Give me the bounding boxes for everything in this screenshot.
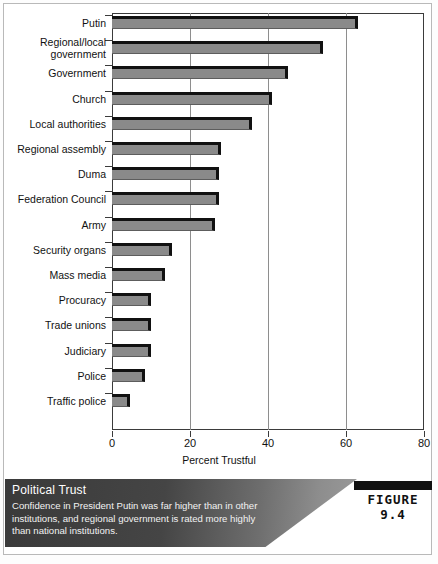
y-axis-label: Duma xyxy=(0,169,106,181)
bar xyxy=(112,293,151,306)
y-axis-tick xyxy=(105,267,112,268)
y-axis-label: Local authorities xyxy=(0,119,106,131)
y-axis-label: Traffic police xyxy=(0,396,106,408)
y-axis-label: Government xyxy=(0,68,106,80)
bar xyxy=(112,41,323,54)
y-axis-label: Putin xyxy=(0,18,106,30)
y-axis-tick xyxy=(105,40,112,41)
y-axis-tick xyxy=(105,368,112,369)
bar xyxy=(112,369,145,382)
bar xyxy=(112,192,219,205)
x-axis-tick-label: 40 xyxy=(248,437,288,449)
bar xyxy=(112,318,151,331)
y-axis-tick xyxy=(105,116,112,117)
y-axis-label: Federation Council xyxy=(0,194,106,206)
y-axis-tick xyxy=(105,343,112,344)
caption-body: Confidence in President Putin was far hi… xyxy=(12,500,262,538)
figure-badge: FIGURE 9.4 xyxy=(354,481,432,522)
y-axis-tick xyxy=(105,166,112,167)
y-axis-label: Procuracy xyxy=(0,295,106,307)
bar xyxy=(112,117,252,130)
y-axis-label: Church xyxy=(0,94,106,106)
bar xyxy=(112,142,221,155)
y-axis-label: Regional/local government xyxy=(0,37,106,60)
bar xyxy=(112,167,219,180)
y-axis-tick xyxy=(105,242,112,243)
chart-area: PutinRegional/local governmentGovernment… xyxy=(0,0,438,470)
bar xyxy=(112,344,151,357)
y-axis-label: Trade unions xyxy=(0,320,106,332)
x-axis-tick-label: 20 xyxy=(170,437,210,449)
figure-badge-bar xyxy=(354,481,432,490)
x-axis-tick-label: 60 xyxy=(326,437,366,449)
x-axis-title: Percent Trustful xyxy=(0,454,438,466)
y-axis-label: Police xyxy=(0,371,106,383)
y-axis-tick xyxy=(105,292,112,293)
figure-number-label: FIGURE 9.4 xyxy=(354,492,432,522)
y-axis-tick xyxy=(105,393,112,394)
y-axis-tick xyxy=(105,15,112,16)
bar xyxy=(112,394,130,407)
bar xyxy=(112,243,172,256)
scanned-page: PutinRegional/local governmentGovernment… xyxy=(0,0,438,564)
y-axis-tick xyxy=(105,141,112,142)
x-axis-tick-label: 0 xyxy=(92,437,132,449)
y-axis-tick xyxy=(105,217,112,218)
x-axis-tick-label: 80 xyxy=(404,437,438,449)
y-axis-tick xyxy=(105,191,112,192)
caption-title: Political Trust xyxy=(12,483,86,497)
bar xyxy=(112,66,288,79)
y-axis-label: Army xyxy=(0,220,106,232)
bar xyxy=(112,268,165,281)
y-axis-label: Regional assembly xyxy=(0,144,106,156)
y-axis-tick xyxy=(105,65,112,66)
y-axis-tick xyxy=(105,317,112,318)
bar xyxy=(112,16,358,29)
bar xyxy=(112,218,215,231)
y-axis-tick xyxy=(105,91,112,92)
y-axis-label: Security organs xyxy=(0,245,106,257)
y-axis-label: Judiciary xyxy=(0,346,106,358)
y-axis-label: Mass media xyxy=(0,270,106,282)
bar xyxy=(112,92,272,105)
